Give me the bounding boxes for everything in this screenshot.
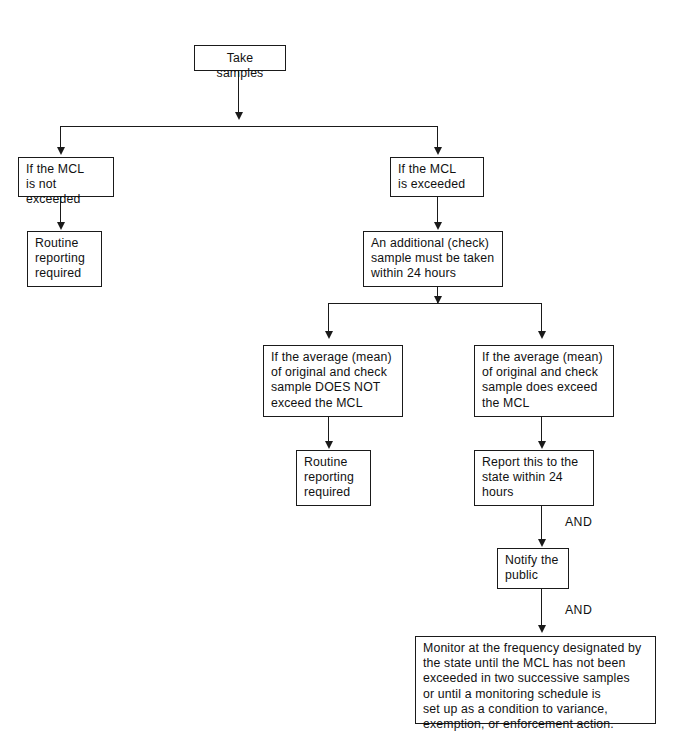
node-take-samples[interactable]: Take samples: [194, 45, 286, 71]
connector-take-samples-down: [238, 71, 239, 118]
connector-notify-public-down: [541, 589, 542, 630]
connector-split-1-bar: [60, 126, 438, 127]
arrowhead-to-additional-check: [434, 222, 442, 230]
node-notify-public[interactable]: Notify the public: [497, 548, 569, 589]
node-routine-reporting-center[interactable]: Routine reporting required: [296, 450, 371, 506]
flowchart-canvas: Take samples If the MCL is not exceeded …: [0, 0, 686, 754]
arrowhead-to-mcl-exceeded: [434, 147, 442, 155]
arrowhead-to-notify-public: [538, 539, 546, 547]
node-report-to-state[interactable]: Report this to the state within 24 hours: [474, 450, 594, 506]
node-mcl-exceeded[interactable]: If the MCL is exceeded: [390, 157, 484, 197]
arrowhead-to-mcl-not-exceeded: [57, 147, 65, 155]
arrowhead-to-routine-center: [325, 441, 333, 449]
arrowhead-to-split-1: [235, 112, 243, 120]
arrowhead-to-avg-does-exceed: [538, 331, 546, 339]
edge-label-and-2: AND: [565, 603, 592, 617]
node-mcl-not-exceeded[interactable]: If the MCL is not exceeded: [18, 157, 114, 197]
node-monitor-frequency[interactable]: Monitor at the frequency designated by t…: [415, 636, 656, 724]
arrowhead-to-monitor-frequency: [538, 625, 546, 633]
arrowhead-to-avg-not-exceed: [325, 331, 333, 339]
arrowhead-to-report-state: [538, 441, 546, 449]
arrowhead-to-routine-left: [57, 222, 65, 230]
node-additional-check-sample[interactable]: An additional (check) sample must be tak…: [363, 231, 503, 287]
node-routine-reporting-left[interactable]: Routine reporting required: [27, 231, 102, 287]
edge-label-and-1: AND: [565, 515, 592, 529]
connector-split-2-bar: [328, 303, 542, 304]
node-average-does-exceed-mcl[interactable]: If the average (mean) of original and ch…: [474, 345, 614, 417]
node-average-not-exceed-mcl[interactable]: If the average (mean) of original and ch…: [263, 345, 403, 417]
